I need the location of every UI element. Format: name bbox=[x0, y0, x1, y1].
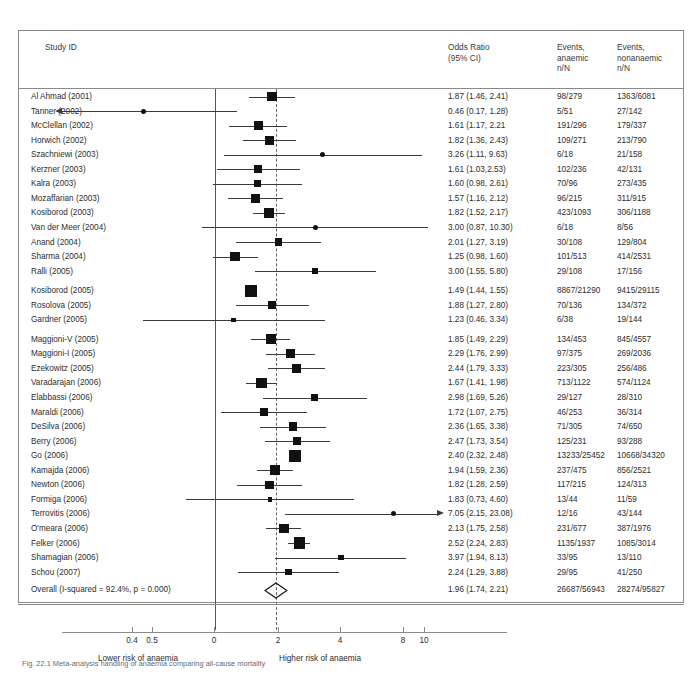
overall-diamond-marker bbox=[251, 582, 301, 599]
axis-tick-label: 10 bbox=[419, 636, 428, 645]
ci-arrow-right-icon bbox=[437, 510, 444, 516]
column-header-study-id: Study ID bbox=[45, 42, 77, 53]
study-label: Gardner (2005) bbox=[31, 315, 87, 324]
odds-ratio-value: 2.52 (2.24, 2.83) bbox=[448, 539, 508, 548]
odds-ratio-value: 1.82 (1.28, 2.59) bbox=[448, 480, 508, 489]
study-label: Rosolova (2005) bbox=[31, 301, 91, 310]
events-anaemic-value: 101/513 bbox=[557, 252, 587, 261]
odds-ratio-value: 1.49 (1.44, 1.55) bbox=[448, 286, 508, 295]
study-label: Van der Meer (2004) bbox=[31, 223, 106, 232]
study-point-marker bbox=[292, 364, 301, 373]
odds-ratio-value: 2.47 (1.73, 3.54) bbox=[448, 437, 508, 446]
odds-ratio-value: 3.00 (0.87, 10.30) bbox=[448, 223, 513, 232]
events-anaemic-value: 102/236 bbox=[557, 165, 587, 174]
study-label: Formiga (2006) bbox=[31, 495, 87, 504]
study-label: Horwich (2002) bbox=[31, 136, 87, 145]
study-label: Terrovitis (2006) bbox=[31, 509, 90, 518]
events-anaemic-value: 423/1093 bbox=[557, 208, 591, 217]
events-nonanaemic-value: 269/2036 bbox=[617, 349, 651, 358]
events-nonanaemic-value: 8/56 bbox=[617, 223, 633, 232]
study-label: O'meara (2006) bbox=[31, 524, 88, 533]
events-anaemic-value: 96/215 bbox=[557, 194, 582, 203]
odds-ratio-value: 1.83 (0.73, 4.60) bbox=[448, 495, 508, 504]
axis-tick bbox=[152, 627, 153, 632]
study-label: Newton (2006) bbox=[31, 480, 85, 489]
events-anaemic-value: 70/136 bbox=[557, 301, 582, 310]
events-anaemic-value: 191/296 bbox=[557, 121, 587, 130]
events-anaemic-value: 98/279 bbox=[557, 92, 582, 101]
study-point-marker bbox=[338, 555, 343, 560]
axis-tick bbox=[403, 627, 404, 632]
events-anaemic-value: 71/305 bbox=[557, 422, 582, 431]
study-label: Elabbassi (2006) bbox=[31, 393, 92, 402]
study-label: Maraldi (2006) bbox=[31, 408, 84, 417]
odds-ratio-value: 1.61 (1.03,2.53) bbox=[448, 165, 506, 174]
events-nonanaemic-value: 414/2531 bbox=[617, 252, 651, 261]
events-nonanaemic-value: 10668/34320 bbox=[617, 451, 665, 460]
figure-caption: Fig. 22.1 Meta-analysis handling of anae… bbox=[22, 659, 265, 668]
study-point-marker bbox=[289, 422, 297, 430]
null-effect-line bbox=[215, 89, 216, 630]
odds-ratio-value: 3.26 (1.11, 9.63) bbox=[448, 150, 507, 159]
overall-odds-ratio-value: 1.96 (1.74, 2.21) bbox=[448, 585, 508, 594]
ci-arrow-left-icon bbox=[55, 108, 62, 114]
events-anaemic-value: 231/677 bbox=[557, 524, 587, 533]
study-point-marker bbox=[254, 180, 261, 187]
confidence-interval-line bbox=[285, 514, 437, 515]
column-header-events-anaemic: Events, anaemic n/N bbox=[557, 42, 588, 74]
events-nonanaemic-value: 256/486 bbox=[617, 364, 647, 373]
plot-frame bbox=[18, 30, 684, 603]
study-point-marker bbox=[293, 437, 301, 445]
study-label: McClellan (2002) bbox=[31, 121, 93, 130]
study-label: DeSilva (2006) bbox=[31, 422, 85, 431]
events-anaemic-value: 12/16 bbox=[557, 509, 578, 518]
study-point-marker bbox=[285, 569, 292, 576]
events-nonanaemic-value: 845/4557 bbox=[617, 335, 651, 344]
events-nonanaemic-value: 311/915 bbox=[617, 194, 646, 203]
events-nonanaemic-value: 13/110 bbox=[617, 553, 641, 562]
odds-ratio-value: 1.87 (1.46, 2.41) bbox=[448, 92, 508, 101]
study-point-marker bbox=[267, 92, 277, 102]
events-nonanaemic-value: 27/142 bbox=[617, 107, 642, 116]
events-anaemic-value: 33/95 bbox=[557, 553, 578, 562]
study-point-marker bbox=[270, 465, 280, 475]
events-nonanaemic-value: 93/288 bbox=[617, 437, 642, 446]
column-header-odds-ratio: Odds Ratio (95% CI) bbox=[448, 42, 490, 63]
events-nonanaemic-value: 134/372 bbox=[617, 301, 647, 310]
study-label: Maggioni-I (2005) bbox=[31, 349, 95, 358]
study-label: Mozaffarian (2003) bbox=[31, 194, 100, 203]
study-label: Kalra (2003) bbox=[31, 179, 76, 188]
table-bottom-divider bbox=[18, 604, 684, 605]
odds-ratio-value: 1.57 (1.16, 2.12) bbox=[448, 194, 508, 203]
overall-label: Overall (I-squared = 92.4%, p = 0.000) bbox=[31, 585, 171, 594]
events-anaemic-value: 97/375 bbox=[557, 349, 582, 358]
events-nonanaemic-value: 21/158 bbox=[617, 150, 642, 159]
odds-ratio-value: 1.67 (1.41, 1.98) bbox=[448, 378, 508, 387]
study-label: Sharma (2004) bbox=[31, 252, 86, 261]
odds-ratio-value: 1.88 (1.27, 2.80) bbox=[448, 301, 508, 310]
study-point-marker bbox=[266, 334, 276, 344]
events-anaemic-value: 223/305 bbox=[557, 364, 587, 373]
odds-ratio-value: 7.05 (2.15, 23.08) bbox=[448, 509, 513, 518]
study-label: Go (2006) bbox=[31, 451, 68, 460]
study-label: Varadarajan (2006) bbox=[31, 378, 101, 387]
study-point-marker bbox=[251, 194, 260, 203]
events-nonanaemic-value: 124/313 bbox=[617, 480, 647, 489]
events-nonanaemic-value: 43/144 bbox=[617, 509, 642, 518]
odds-ratio-value: 3.97 (1.94, 8.13) bbox=[448, 553, 508, 562]
study-point-marker bbox=[279, 524, 289, 534]
study-label: Berry (2006) bbox=[31, 437, 77, 446]
events-nonanaemic-value: 1363/6081 bbox=[617, 92, 656, 101]
events-nonanaemic-value: 387/1976 bbox=[617, 524, 651, 533]
study-point-marker bbox=[231, 318, 236, 323]
events-anaemic-value: 46/253 bbox=[557, 408, 582, 417]
events-anaemic-value: 125/231 bbox=[557, 437, 587, 446]
events-anaemic-value: 713/1122 bbox=[557, 378, 591, 387]
study-point-marker bbox=[268, 301, 276, 309]
events-anaemic-value: 6/18 bbox=[557, 150, 573, 159]
axis-tick bbox=[424, 627, 425, 632]
study-label: Felker (2006) bbox=[31, 539, 80, 548]
study-label: Ralli (2005) bbox=[31, 267, 73, 276]
events-nonanaemic-value: 273/435 bbox=[617, 179, 647, 188]
events-nonanaemic-value: 36/314 bbox=[617, 408, 642, 417]
